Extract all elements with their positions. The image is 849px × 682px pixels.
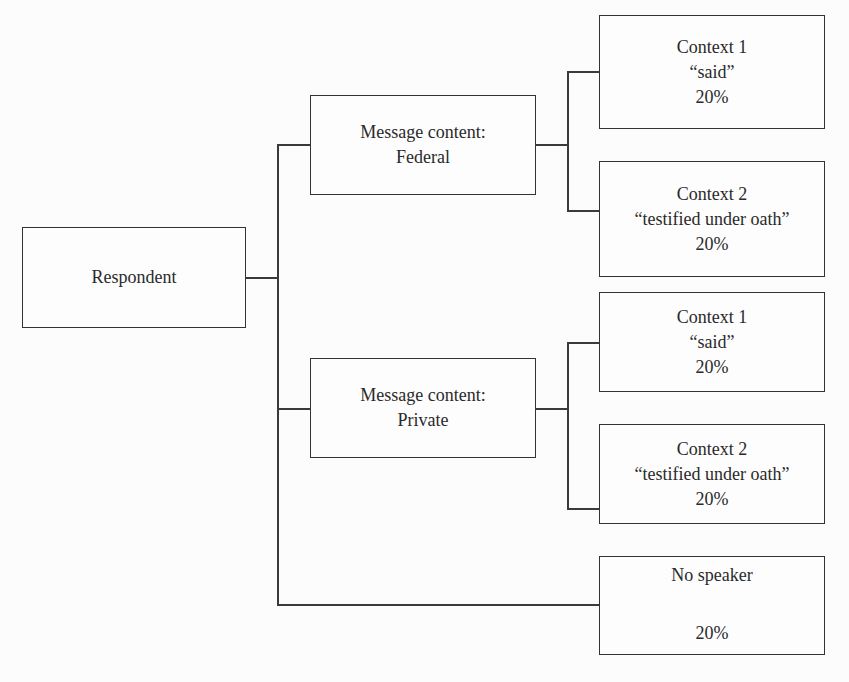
connector-federal-c2 (567, 210, 600, 212)
connector-private (277, 408, 311, 410)
context-title: Context 1 (677, 305, 748, 330)
context-percent: 20% (696, 85, 729, 110)
connector-root (245, 277, 278, 279)
connector-private-c1 (567, 342, 600, 344)
connector-private-c2 (567, 508, 600, 510)
context-title: Context 2 (677, 437, 748, 462)
connector-federal-out (535, 144, 568, 146)
context-verb: “testified under oath” (635, 462, 790, 487)
message-private-line1: Message content: (360, 383, 485, 408)
message-private-line2: Private (398, 408, 449, 433)
context-title: Context 1 (677, 35, 748, 60)
trunk-main (277, 144, 279, 605)
private-context-1-node: Context 1 “said” 20% (599, 292, 825, 392)
federal-context-2-node: Context 2 “testified under oath” 20% (599, 161, 825, 277)
respondent-label: Respondent (92, 265, 177, 290)
context-percent: 20% (696, 355, 729, 380)
no-speaker-title: No speaker (671, 563, 752, 588)
message-federal-node: Message content: Federal (310, 95, 536, 195)
trunk-private (567, 342, 569, 509)
connector-no-speaker (277, 604, 600, 606)
context-percent: 20% (696, 487, 729, 512)
context-verb: “testified under oath” (635, 207, 790, 232)
no-speaker-node: No speaker 20% (599, 556, 825, 655)
trunk-federal (567, 71, 569, 211)
context-verb: “said” (690, 60, 735, 85)
no-speaker-percent: 20% (696, 621, 729, 646)
connector-private-out (535, 408, 568, 410)
context-percent: 20% (696, 232, 729, 257)
message-private-node: Message content: Private (310, 358, 536, 458)
federal-context-1-node: Context 1 “said” 20% (599, 15, 825, 129)
message-federal-line1: Message content: (360, 120, 485, 145)
context-verb: “said” (690, 330, 735, 355)
connector-federal-c1 (567, 71, 600, 73)
message-federal-line2: Federal (396, 145, 450, 170)
context-title: Context 2 (677, 182, 748, 207)
connector-federal (277, 144, 311, 146)
respondent-node: Respondent (22, 227, 246, 328)
private-context-2-node: Context 2 “testified under oath” 20% (599, 424, 825, 524)
